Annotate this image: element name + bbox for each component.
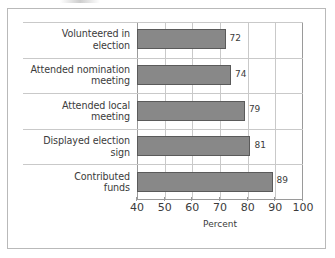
bar — [137, 29, 226, 49]
bar-rows: Volunteered inelection72Attended nominat… — [0, 22, 303, 200]
bar-row: Displayed electionsign81 — [0, 129, 303, 165]
x-tick-label-100: 100 — [293, 201, 314, 214]
bar — [137, 136, 250, 156]
category-label-line: Volunteered in — [62, 28, 130, 39]
category-label: Attended nominationmeeting — [23, 58, 130, 94]
x-tick-mark-50 — [164, 197, 165, 201]
category-label-line: meeting — [91, 75, 130, 86]
category-label-line: meeting — [91, 111, 130, 122]
x-tick-mark-100 — [302, 197, 303, 201]
top-edge-artifact — [60, 0, 100, 3]
category-label: Attended localmeeting — [23, 93, 130, 129]
category-label-line: Contributed — [74, 171, 130, 182]
bar-value-label: 72 — [230, 33, 241, 43]
x-axis-label: Percent — [137, 219, 303, 229]
bar — [137, 172, 273, 192]
bar-row: Attended nominationmeeting74 — [0, 58, 303, 94]
x-tick-mark-80 — [247, 197, 248, 201]
category-label-line: Attended nomination — [31, 64, 130, 75]
category-label: Volunteered inelection — [23, 22, 130, 58]
category-label-line: funds — [104, 182, 130, 193]
x-tick-label-80: 80 — [241, 201, 255, 214]
x-tick-mark-70 — [219, 197, 220, 201]
x-axis-ticks: 405060708090100 — [0, 201, 335, 217]
bar — [137, 65, 231, 85]
category-label-line: election — [93, 40, 130, 51]
bar-row: Contributedfunds89 — [0, 164, 303, 200]
bar-row: Volunteered inelection72 — [0, 22, 303, 58]
x-tick-label-50: 50 — [158, 201, 172, 214]
chart-figure: Volunteered inelection72Attended nominat… — [0, 0, 335, 258]
category-label: Contributedfunds — [23, 164, 130, 200]
bar — [137, 101, 245, 121]
category-label-line: sign — [111, 147, 130, 158]
x-tick-label-40: 40 — [130, 201, 144, 214]
bar-row: Attended localmeeting79 — [0, 93, 303, 129]
x-tick-mark-60 — [191, 197, 192, 201]
x-tick-label-90: 90 — [268, 201, 282, 214]
bar-value-label: 79 — [249, 104, 260, 114]
category-label-line: Displayed election — [43, 135, 130, 146]
bar-value-label: 89 — [277, 175, 288, 185]
x-tick-label-60: 60 — [185, 201, 199, 214]
x-tick-mark-90 — [274, 197, 275, 201]
bar-value-label: 81 — [254, 140, 265, 150]
bar-value-label: 74 — [235, 69, 246, 79]
x-tick-mark-40 — [136, 197, 137, 201]
x-tick-label-70: 70 — [213, 201, 227, 214]
category-label: Displayed electionsign — [23, 129, 130, 165]
category-label-line: Attended local — [62, 100, 130, 111]
